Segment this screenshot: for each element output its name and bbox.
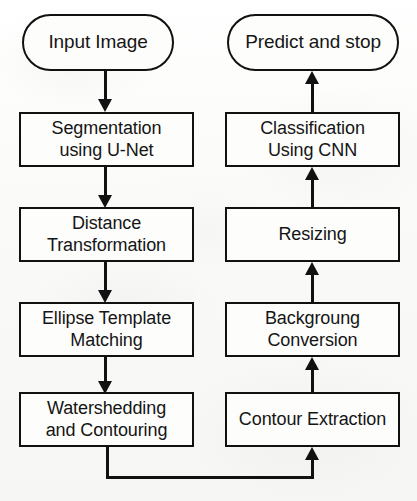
edge-resizing-to-classification-line bbox=[311, 180, 314, 207]
node-watershedding[interactable]: Watershedding and Contouring bbox=[19, 392, 194, 447]
edge-classification-to-predict-line bbox=[311, 84, 314, 112]
node-background-conversion[interactable]: Backgroung Conversion bbox=[225, 302, 400, 357]
node-segmentation[interactable]: Segmentation using U-Net bbox=[19, 112, 194, 167]
flowchart-canvas: Input Image Segmentation using U-Net Dis… bbox=[0, 0, 417, 501]
node-classification-label: Classification Using CNN bbox=[256, 118, 369, 160]
node-classification[interactable]: Classification Using CNN bbox=[225, 112, 400, 167]
node-segmentation-label: Segmentation using U-Net bbox=[48, 118, 166, 160]
edge-classification-to-predict-arrowhead bbox=[305, 71, 319, 84]
node-input-image[interactable]: Input Image bbox=[22, 14, 174, 71]
figure-caption bbox=[0, 492, 417, 501]
node-contour-extraction-label: Contour Extraction bbox=[235, 409, 390, 430]
node-background-conversion-label: Backgroung Conversion bbox=[261, 308, 364, 350]
node-watershedding-label: Watershedding and Contouring bbox=[42, 398, 172, 440]
edge-loop-right-vertical bbox=[311, 460, 314, 478]
edge-contour-to-background-line bbox=[311, 370, 314, 392]
edge-resizing-to-classification-arrowhead bbox=[305, 167, 319, 180]
node-predict-and-stop[interactable]: Predict and stop bbox=[227, 14, 399, 71]
node-input-image-label: Input Image bbox=[44, 31, 151, 53]
node-predict-and-stop-label: Predict and stop bbox=[241, 31, 385, 53]
node-resizing[interactable]: Resizing bbox=[225, 207, 400, 262]
node-distance-transformation-label: Distance Transformation bbox=[43, 213, 170, 255]
edge-loop-bottom-horizontal bbox=[106, 476, 314, 479]
node-contour-extraction[interactable]: Contour Extraction bbox=[225, 392, 400, 447]
edge-loop-left-vertical bbox=[106, 447, 109, 478]
edge-input-to-segmentation-arrowhead bbox=[98, 99, 112, 112]
node-distance-transformation[interactable]: Distance Transformation bbox=[19, 207, 194, 262]
node-resizing-label: Resizing bbox=[274, 224, 350, 245]
node-ellipse-template-matching-label: Ellipse Template Matching bbox=[38, 308, 175, 350]
edge-background-to-resizing-arrowhead bbox=[305, 262, 319, 275]
edge-contour-to-background-arrowhead bbox=[305, 357, 319, 370]
node-ellipse-template-matching[interactable]: Ellipse Template Matching bbox=[19, 302, 194, 357]
edge-background-to-resizing-line bbox=[311, 275, 314, 302]
edge-loop-arrowhead bbox=[305, 447, 319, 460]
